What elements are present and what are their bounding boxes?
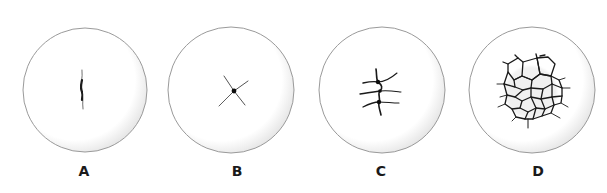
panel-label-b: B bbox=[222, 163, 252, 179]
panel-label-c: C bbox=[366, 163, 396, 179]
dish-outline-b bbox=[168, 27, 294, 153]
panel-c bbox=[319, 27, 445, 153]
panel-label-d: D bbox=[523, 163, 553, 179]
panel-b bbox=[168, 27, 294, 153]
panel-d bbox=[469, 27, 595, 153]
dish-outline-a bbox=[23, 28, 147, 152]
panel-label-a: A bbox=[69, 163, 99, 179]
dish-outline-c bbox=[319, 27, 445, 153]
panel-a bbox=[23, 28, 147, 152]
figure: A B C D bbox=[0, 0, 607, 193]
